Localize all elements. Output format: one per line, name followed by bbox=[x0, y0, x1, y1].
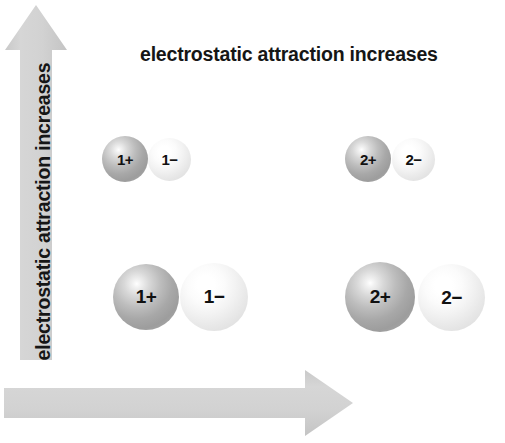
ion-sphere-anion: 2− bbox=[392, 138, 435, 181]
ion-sphere-anion: 1− bbox=[148, 138, 191, 181]
ion-label: 1+ bbox=[102, 136, 148, 182]
ion-label: 1− bbox=[180, 263, 248, 331]
horizontal-arrow-label: electrostatic attraction increases bbox=[140, 43, 438, 66]
ion-label: 2− bbox=[418, 264, 485, 331]
ion-sphere-anion: 1− bbox=[180, 263, 248, 331]
ion-sphere-cation: 2+ bbox=[345, 136, 391, 182]
vertical-arrow: electrostatic attraction increases bbox=[0, 0, 72, 365]
ion-label: 2+ bbox=[345, 262, 415, 332]
ion-label: 1− bbox=[148, 138, 191, 181]
ion-label: 2+ bbox=[345, 136, 391, 182]
ion-sphere-cation: 2+ bbox=[345, 262, 415, 332]
ion-sphere-anion: 2− bbox=[418, 264, 485, 331]
horizontal-arrow bbox=[0, 365, 358, 441]
ion-label: 1+ bbox=[113, 264, 179, 330]
diagram-canvas: electrostatic attraction increases elect… bbox=[0, 0, 505, 443]
vertical-arrow-label: electrostatic attraction increases bbox=[32, 62, 55, 362]
ion-sphere-cation: 1+ bbox=[113, 264, 179, 330]
ion-label: 2− bbox=[392, 138, 435, 181]
horizontal-arrow-shape bbox=[0, 365, 358, 441]
horizontal-arrow-polygon bbox=[4, 370, 353, 436]
ion-sphere-cation: 1+ bbox=[102, 136, 148, 182]
